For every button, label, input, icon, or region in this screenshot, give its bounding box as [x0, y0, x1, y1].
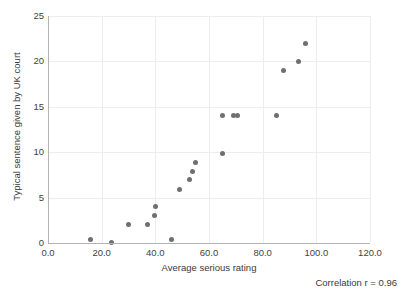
y-axis-line	[48, 16, 49, 243]
gridline-x-100.0	[316, 16, 317, 243]
x-tick-label: 100.0	[286, 247, 346, 258]
y-tick-label: 15	[0, 102, 44, 112]
gridline-x-60.0	[209, 16, 210, 243]
data-point	[303, 41, 308, 46]
data-point	[126, 222, 131, 227]
data-point	[145, 222, 150, 227]
y-tick-label: 20	[0, 56, 44, 66]
data-point	[177, 187, 182, 192]
x-tick-label: 0.0	[18, 247, 78, 258]
scatter-chart: 0510152025 0.020.040.060.080.0100.0120.0…	[0, 0, 401, 294]
x-axis-tick-labels: 0.020.040.060.080.0100.0120.0	[0, 247, 401, 261]
data-point	[296, 59, 301, 64]
plot-area	[48, 16, 370, 243]
data-point	[187, 177, 192, 182]
y-tick-label: 5	[0, 193, 44, 203]
x-tick-label: 80.0	[233, 247, 293, 258]
gridline-x-20.0	[102, 16, 103, 243]
data-point	[153, 204, 158, 209]
data-point	[88, 237, 93, 242]
data-point	[281, 68, 286, 73]
x-tick-label: 20.0	[72, 247, 132, 258]
y-axis-title: Typical sentence given by UK court	[11, 12, 22, 242]
x-axis-line	[48, 243, 370, 244]
data-point	[220, 113, 225, 118]
data-point	[220, 151, 225, 156]
y-tick-label: 10	[0, 147, 44, 157]
x-axis-title: Average serious rating	[48, 262, 370, 273]
x-tick-label: 60.0	[179, 247, 239, 258]
y-tick-label: 25	[0, 11, 44, 21]
gridline-x-80.0	[263, 16, 264, 243]
data-point	[190, 169, 195, 174]
gridline-x-120.0	[370, 16, 371, 243]
correlation-annotation: Correlation r = 0.96	[315, 277, 397, 288]
data-point	[193, 160, 198, 165]
data-point	[235, 113, 240, 118]
x-tick-label: 40.0	[125, 247, 185, 258]
data-point	[152, 213, 157, 218]
data-point	[169, 237, 174, 242]
x-tick-label: 120.0	[340, 247, 400, 258]
data-point	[274, 113, 279, 118]
